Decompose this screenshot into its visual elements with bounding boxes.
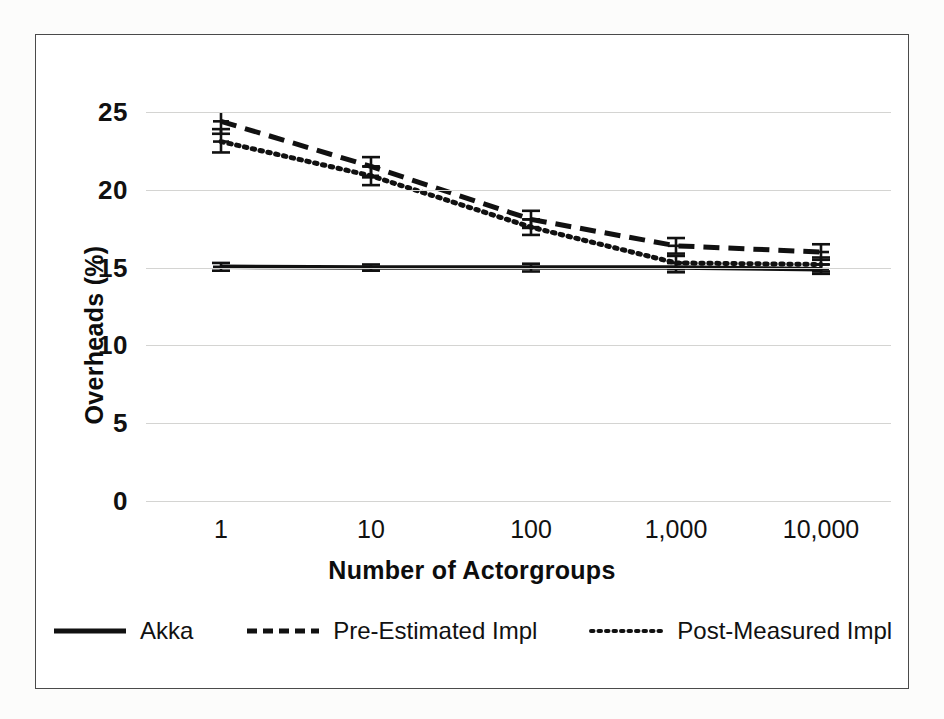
x-tick-label-1000: 1,000 [645,515,708,544]
y-tick-label-0: 0 [113,486,128,517]
legend-item-post-measured-impl[interactable]: Post-Measured Impl [589,617,892,645]
legend-item-akka[interactable]: Akka [52,617,193,645]
series-pre-estimated-impl [212,112,830,260]
y-tick-label-10: 10 [98,330,128,361]
gridline-5 [146,423,891,424]
gridline-25 [146,112,891,113]
plot-area: 0510152025 1101001,00010,000 [146,112,891,501]
error-bar [667,238,685,254]
x-tick-label-1: 1 [214,515,228,544]
gridline-20 [146,190,891,191]
x-tick-label-10000: 10,000 [783,515,859,544]
chart-legend: AkkaPre-Estimated ImplPost-Measured Impl [36,617,908,645]
y-tick-label-20: 20 [98,174,128,205]
gridline-15 [146,268,891,269]
x-tick-label-100: 100 [510,515,552,544]
gridline-0 [146,501,891,502]
y-tick-label-25: 25 [98,97,128,128]
legend-swatch-dashed [245,622,321,640]
chart-frame: Overheads (%) 0510152025 1101001,00010,0… [35,34,909,689]
series-line [221,121,821,252]
legend-swatch-dotted [589,622,665,640]
series-plot [146,112,891,501]
legend-label: Akka [140,617,193,645]
gridline-10 [146,345,891,346]
x-tick-label-10: 10 [357,515,385,544]
legend-label: Pre-Estimated Impl [333,617,537,645]
legend-item-pre-estimated-impl[interactable]: Pre-Estimated Impl [245,617,537,645]
x-axis-title: Number of Actorgroups [36,556,908,585]
y-tick-label-5: 5 [113,408,128,439]
legend-swatch-solid [52,622,128,640]
y-tick-label-15: 15 [98,252,128,283]
legend-label: Post-Measured Impl [677,617,892,645]
